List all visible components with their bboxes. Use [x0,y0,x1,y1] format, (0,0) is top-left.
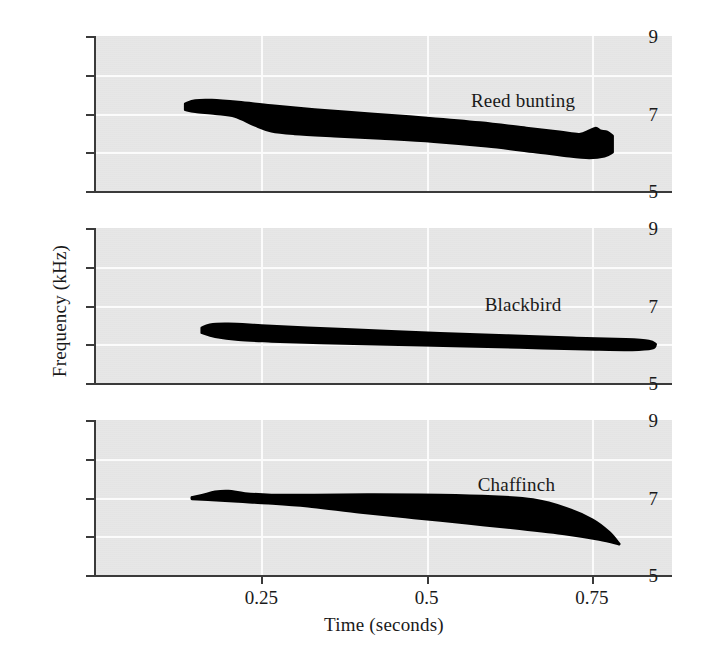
ytick-6 [86,344,95,346]
x-axis-spine [94,383,672,385]
ytick-9 [86,36,95,38]
spectrogram-figure: Frequency (kHz) 9 7 5 Reed bunting [0,0,702,663]
ytick-label-5: 5 [628,374,658,393]
ytick-6 [86,152,95,154]
ytick-5 [86,191,95,193]
ytick-6 [86,536,95,538]
xtick-025 [261,575,263,584]
ytick-7 [86,498,95,500]
xtick-label-05: 0.5 [415,588,439,607]
ytick-9 [86,420,95,422]
panel-label-chaffinch: Chaffinch [478,474,555,493]
xtick-075 [592,575,594,584]
plot-area-reed-bunting [96,36,672,191]
x-axis-spine [94,575,672,577]
trace-blackbird [96,228,672,383]
ytick-label-5: 5 [628,566,658,585]
ytick-7 [86,114,95,116]
ytick-label-9: 9 [628,219,658,238]
ytick-5 [86,383,95,385]
ytick-label-5: 5 [628,182,658,201]
xtick-label-075: 0.75 [575,588,608,607]
plot-area-blackbird [96,228,672,383]
y-axis-title: Frequency (kHz) [49,191,71,431]
xtick-label-025: 0.25 [245,588,278,607]
ytick-label-7: 7 [628,104,658,123]
ytick-7 [86,306,95,308]
x-axis-spine [94,191,672,193]
plot-area-chaffinch [96,420,672,575]
ytick-8 [86,459,95,461]
x-axis-title: Time (seconds) [96,614,672,636]
ytick-label-9: 9 [628,411,658,430]
ytick-8 [86,75,95,77]
ytick-8 [86,267,95,269]
ytick-label-9: 9 [628,27,658,46]
panel-label-reed-bunting: Reed bunting [471,90,575,109]
panel-blackbird: 9 7 5 Blackbird [96,228,672,383]
panel-reed-bunting: 9 7 5 Reed bunting [96,36,672,191]
ytick-label-7: 7 [628,488,658,507]
ytick-5 [86,575,95,577]
trace-chaffinch [96,420,672,575]
trace-reed-bunting [96,36,672,191]
panel-label-blackbird: Blackbird [485,294,562,313]
xtick-05 [427,575,429,584]
ytick-9 [86,228,95,230]
ytick-label-7: 7 [628,296,658,315]
panel-chaffinch: 9 7 5 0.25 0.5 0.75 Chaffinch [96,420,672,575]
